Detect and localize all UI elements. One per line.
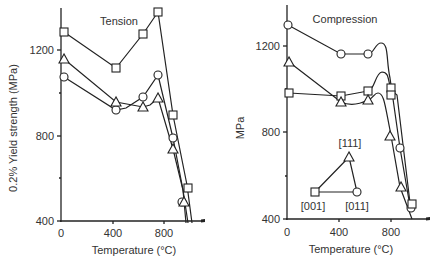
series-circle-line <box>288 25 411 212</box>
x-tick-0: 0 <box>58 227 64 239</box>
x-axis-label: Temperature (°C) <box>309 243 393 255</box>
x-tick-800: 800 <box>155 227 173 239</box>
series-triangle-line <box>64 59 186 223</box>
inset-label-111: [111] <box>339 137 362 149</box>
inset-square-marker <box>311 188 319 196</box>
y-tick-1200: 1200 <box>30 44 54 56</box>
square-markers <box>60 8 192 192</box>
y-tick-400: 400 <box>36 215 54 227</box>
orientation-triangle-inset: [111] [001] [011] <box>301 137 369 212</box>
y-axis-label: 0.2% Yield strength (MPa) <box>7 64 19 192</box>
y-tick-1200: 1200 <box>256 40 280 52</box>
chart-title: Compression <box>313 13 378 25</box>
triangle-markers <box>59 54 189 206</box>
x-axis-arrow-icon <box>201 219 205 223</box>
x-axis-label: Temperature (°C) <box>92 244 176 256</box>
chart-title: Tension <box>100 15 138 27</box>
inset-label-001: [001] <box>301 200 325 212</box>
tension-chart: 1200 800 400 0 400 800 Temperature (°C) … <box>7 8 205 256</box>
inset-circle-marker <box>353 188 361 196</box>
series-circle-line <box>64 75 188 223</box>
x-axis-arrow-icon <box>426 217 430 221</box>
x-tick-400: 400 <box>330 226 348 238</box>
x-tick-0: 0 <box>284 226 290 238</box>
y-tick-400: 400 <box>262 213 280 225</box>
y-tick-800: 800 <box>262 126 280 138</box>
x-tick-800: 800 <box>382 226 400 238</box>
inset-label-011: [011] <box>345 200 369 212</box>
y-tick-800: 800 <box>36 130 54 142</box>
circle-markers <box>60 71 186 206</box>
compression-chart: 1200 800 400 0 400 800 Temperature (°C) … <box>234 5 430 255</box>
x-tick-400: 400 <box>104 227 122 239</box>
y-axis-label: MPa <box>234 116 246 140</box>
figure: 1200 800 400 0 400 800 Temperature (°C) … <box>0 0 436 267</box>
inset-triangle-marker <box>344 152 354 161</box>
